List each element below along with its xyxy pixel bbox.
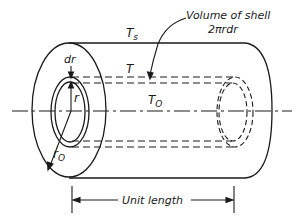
center-temp-label: TO bbox=[148, 93, 162, 109]
shell-radius-label: r bbox=[74, 91, 80, 105]
unit-length-label: Unit length bbox=[122, 194, 183, 207]
dimension-right-arrowhead bbox=[226, 198, 233, 203]
surface-temp-label: Ts bbox=[126, 26, 138, 42]
volume-callout-leader bbox=[150, 18, 186, 75]
volume-callout-arrowhead bbox=[148, 72, 154, 79]
back-shell-outer-ellipse bbox=[217, 77, 253, 147]
back-shell-inner-ellipse bbox=[219, 83, 247, 141]
dimension-left-arrowhead bbox=[73, 198, 80, 203]
volume-callout-line1: Volume of shell bbox=[186, 9, 270, 22]
cylinder-shell-diagram: Ts T TO dr r rO Volume of shell 2πrdr Un… bbox=[0, 0, 297, 221]
outer-radius-label: rO bbox=[53, 147, 65, 163]
shell-thickness-label: dr bbox=[64, 53, 77, 66]
shell-temp-label: T bbox=[126, 62, 135, 76]
shell-inner-ellipse bbox=[55, 82, 85, 142]
volume-callout-line2: 2πrdr bbox=[208, 23, 239, 36]
